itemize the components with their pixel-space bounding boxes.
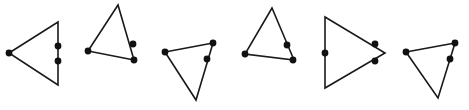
- triangle-5-dot-left-edge-middle: [322, 50, 329, 57]
- triangle-3-dot-top-right: [210, 40, 217, 47]
- shapes-layer: [6, 5, 459, 100]
- triangle-4: [242, 8, 297, 63]
- triangle-2: [85, 5, 138, 63]
- triangle-6-dot-top-right: [452, 40, 459, 47]
- triangle-6-dot-top-left: [403, 49, 410, 56]
- triangles-figure: [0, 0, 469, 110]
- triangle-5: [322, 17, 385, 88]
- triangle-1-outline: [9, 22, 58, 85]
- triangle-5-outline: [325, 17, 385, 88]
- triangle-2-dot-right-edge: [130, 41, 137, 48]
- triangle-1-dot-apex-left: [6, 50, 13, 57]
- triangle-3-dot-top-left: [162, 49, 169, 56]
- triangle-5-dot-upper-right-edge: [372, 41, 379, 48]
- triangle-2-outline: [88, 5, 134, 60]
- triangle-6: [403, 40, 459, 98]
- triangle-2-dot-bottom-right: [131, 57, 138, 64]
- triangle-5-dot-lower-right-edge: [372, 58, 379, 65]
- triangle-4-dot-bottom-right: [290, 57, 297, 64]
- triangle-4-dot-right-edge: [284, 42, 291, 49]
- triangle-1-dot-right-edge-lower: [55, 58, 62, 65]
- triangle-6-outline: [406, 43, 455, 98]
- triangle-4-outline: [245, 8, 294, 60]
- triangle-1: [6, 22, 62, 85]
- triangle-3-dot-right-edge: [204, 56, 211, 63]
- triangle-1-dot-right-edge-upper: [55, 43, 62, 50]
- triangle-3: [162, 40, 217, 100]
- triangle-2-dot-bottom-left: [85, 48, 92, 55]
- triangle-6-dot-right-edge: [447, 56, 454, 63]
- triangle-3-outline: [165, 43, 213, 100]
- triangle-4-dot-bottom-left: [242, 51, 249, 58]
